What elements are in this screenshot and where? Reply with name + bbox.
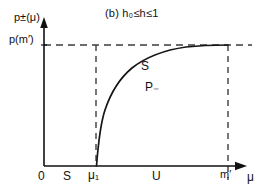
y-axis-tick-label-pm: p(m′) <box>9 34 34 45</box>
branch-curve-p-minus <box>97 45 229 166</box>
x-axis-label: μ <box>247 171 254 183</box>
y-axis-label: p±(μ) <box>14 12 40 23</box>
x-axis-arrowhead-icon <box>235 162 247 170</box>
figure-panel-b: (b) h₀≤h≤1 p±(μ) p(m′) 0 S μ₁ U m′ μ S P… <box>0 0 266 195</box>
x-tick-label-mprime: m′ <box>220 169 231 180</box>
x-tick-label-stable-region: S <box>63 170 71 182</box>
curve-annotation-s: S <box>141 60 149 72</box>
x-tick-label-unstable-region: U <box>152 170 161 182</box>
x-tick-label-origin: 0 <box>38 170 45 182</box>
panel-title: (b) h₀≤h≤1 <box>105 8 159 19</box>
x-tick-label-mu1: μ₁ <box>88 169 99 181</box>
plot-canvas <box>0 0 266 195</box>
curve-annotation-p-minus: P₋ <box>145 81 159 93</box>
y-axis-arrowhead-icon <box>40 17 48 28</box>
